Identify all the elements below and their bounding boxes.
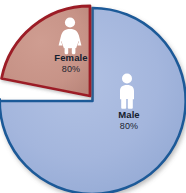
pie-chart: Female 80% Male 80%	[0, 0, 186, 193]
cropped-title-fragment	[152, 0, 170, 1]
female-slice[interactable]	[2, 6, 91, 96]
pie-chart-svg	[0, 0, 186, 193]
